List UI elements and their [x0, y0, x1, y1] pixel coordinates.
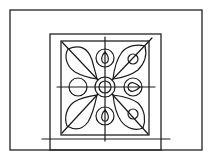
- outer-frame: [10, 10, 202, 150]
- tile-diagram: [0, 0, 209, 164]
- leaf-circle-top-right: [128, 54, 138, 64]
- diagonal-bottom-left: [62, 94, 98, 133]
